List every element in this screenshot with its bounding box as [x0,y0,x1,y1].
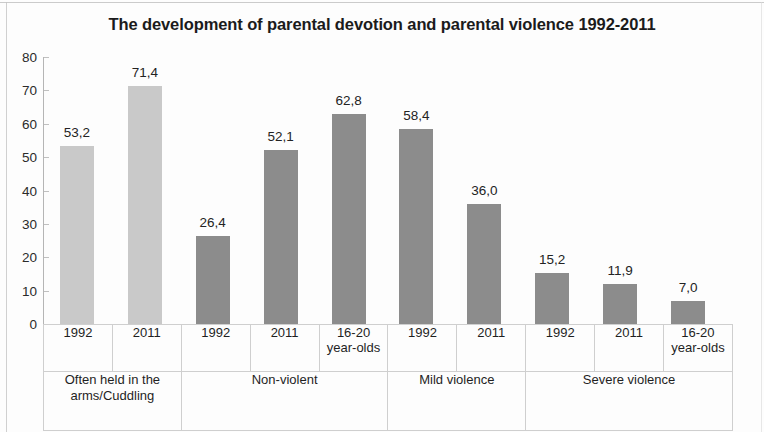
bar-value-label: 53,2 [64,125,90,140]
scan-top-border [0,2,764,3]
category-tick-label: 1992 [526,325,594,340]
bar-value-label: 52,1 [267,129,293,144]
bar-slot: 62,8 [315,57,383,324]
bar [467,204,501,324]
bar-value-label: 26,4 [200,215,226,230]
group-label-cell: Severe violence [526,372,733,431]
category-tick-cell: 16-20year-olds [319,325,388,372]
category-tick-cell: 2011 [457,325,526,372]
group-label: Mild violence [388,372,525,388]
category-tick-label: 16-20 [664,325,732,340]
bar [128,86,162,324]
bar [332,114,366,324]
bar [603,284,637,324]
bar-value-label: 7,0 [679,280,698,295]
bar-value-label: 11,9 [607,263,632,278]
group-label: Severe violence [526,372,732,388]
group-label-cell: Mild violence [388,372,526,431]
bar [196,236,230,324]
tick-label-row: 199220111992201116-20year-olds1992201119… [44,325,733,372]
y-axis-tick-label: 60 [0,116,37,131]
bar-slot: 36,0 [450,57,518,324]
category-tick-label: 1992 [44,325,112,340]
bar-value-label: 15,2 [539,252,565,267]
category-tick-label: 1992 [388,325,456,340]
group-label: Non-violent [182,372,388,388]
category-tick-label: 2011 [251,325,319,340]
chart-page: The development of parental devotion and… [0,0,764,432]
y-axis-tick-label: 70 [0,83,37,98]
y-axis-tick-label: 50 [0,150,37,165]
bar-value-label: 58,4 [403,108,429,123]
bar-slot: 71,4 [111,57,179,324]
category-tick-cell: 1992 [44,325,113,372]
category-tick-cell: 1992 [181,325,250,372]
bar-slot: 52,1 [247,57,315,324]
category-tick-cell: 1992 [388,325,457,372]
category-tick-cell: 2011 [112,325,181,372]
y-axis-tick-label: 40 [0,183,37,198]
category-tick-cell: 2011 [250,325,319,372]
category-tick-label: 16-20 [320,325,388,340]
y-axis-tick-label: 10 [0,283,37,298]
scan-right-border [761,2,762,432]
bar-slot: 7,0 [654,57,722,324]
bar-value-label: 71,4 [132,65,158,80]
category-tick-label: 1992 [182,325,250,340]
category-tick-label: year-olds [664,340,732,355]
y-axis-tick-label: 0 [0,317,37,332]
bar [264,150,298,324]
category-tick-cell: 1992 [526,325,595,372]
category-tick-label: year-olds [320,340,388,355]
category-tick-label: 2011 [113,325,181,340]
group-label-cell: Non-violent [181,372,388,431]
category-tick-label: 2011 [457,325,525,340]
category-tick-label: 2011 [595,325,663,340]
category-tick-cell: 16-20year-olds [664,325,733,372]
group-label-row: Often held in the arms/CuddlingNon-viole… [44,372,733,431]
bar-value-label: 36,0 [471,183,497,198]
bar [671,301,705,324]
bar-value-label: 62,8 [335,93,361,108]
y-axis-tick-label: 80 [0,50,37,65]
y-axis-tick-label: 20 [0,250,37,265]
bars-layer: 53,271,426,452,162,858,436,015,211,97,0 [43,57,722,324]
bar-slot: 11,9 [586,57,654,324]
bar-slot: 53,2 [43,57,111,324]
bar-slot: 15,2 [518,57,586,324]
y-axis-tick-label: 30 [0,216,37,231]
chart-title: The development of parental devotion and… [0,15,764,34]
category-tick-cell: 2011 [595,325,664,372]
category-axis-table: 199220111992201116-20year-olds1992201119… [43,324,733,431]
group-label: Often held in the arms/Cuddling [44,372,181,404]
group-label-cell: Often held in the arms/Cuddling [44,372,182,431]
bar-slot: 58,4 [383,57,451,324]
bar [60,146,94,324]
bar [535,273,569,324]
bar [399,129,433,324]
bar-slot: 26,4 [179,57,247,324]
